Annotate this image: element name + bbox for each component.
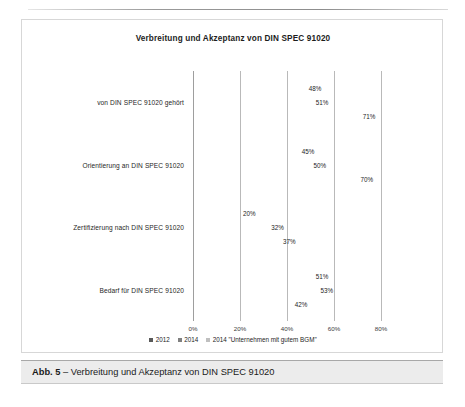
bar-row: 53%: [193, 283, 318, 297]
bar-group: Orientierung an DIN SPEC 9102045%50%70%: [193, 134, 381, 197]
bar-value-label: 70%: [361, 175, 374, 182]
bar-row: 51%: [193, 269, 313, 283]
bar-group: von DIN SPEC 91020 gehört48%51%71%: [193, 71, 381, 134]
legend-label: 2012: [156, 336, 170, 343]
legend-swatch-icon: [206, 338, 210, 342]
legend-label: 2014 "Unternehmen mit gutem BGM": [213, 336, 317, 343]
x-tick-label: 20%: [234, 325, 246, 332]
figure-caption-number: Abb. 5: [32, 367, 60, 377]
legend-item[interactable]: 2014: [178, 336, 199, 343]
bar-row: 48%: [193, 81, 306, 95]
x-tick-label: 40%: [281, 325, 293, 332]
bar-value-label: 37%: [283, 238, 296, 245]
bar-value-label: 51%: [316, 99, 329, 106]
bar-value-label: 48%: [309, 85, 322, 92]
x-tick-label: 80%: [375, 325, 387, 332]
figure-caption-title: Verbreitung und Akzeptanz von DIN SPEC 9…: [71, 367, 275, 377]
bar-row: 45%: [193, 144, 299, 158]
bar-group: Zertifizierung nach DIN SPEC 9102020%32%…: [193, 196, 381, 259]
bar-row: 37%: [193, 234, 280, 248]
bar-row: 70%: [193, 172, 358, 186]
bar-value-label: 45%: [302, 147, 315, 154]
category-label: Bedarf für DIN SPEC 91020: [99, 286, 184, 293]
page-top-rule: [28, 9, 448, 10]
x-tick-label: 0%: [189, 325, 198, 332]
figure-caption: Abb. 5 – Verbreitung und Akzeptanz von D…: [32, 367, 274, 377]
chart-title: Verbreitung und Akzeptanz von DIN SPEC 9…: [22, 34, 444, 43]
legend-swatch-icon: [178, 338, 182, 342]
legend-swatch-icon: [149, 338, 153, 342]
bar-value-label: 53%: [321, 286, 334, 293]
bar-value-label: 42%: [295, 300, 308, 307]
bar-row: 20%: [193, 206, 240, 220]
category-label: Zertifizierung nach DIN SPEC 91020: [73, 224, 184, 231]
bar-value-label: 20%: [243, 210, 256, 217]
bar-value-label: 71%: [363, 113, 376, 120]
legend-item[interactable]: 2014 "Unternehmen mit gutem BGM": [206, 336, 316, 343]
bar-group: Bedarf für DIN SPEC 9102051%53%42%: [193, 259, 381, 322]
x-tick-label: 60%: [328, 325, 340, 332]
bar-value-label: 51%: [316, 272, 329, 279]
bar-row: 32%: [193, 220, 268, 234]
bar-value-label: 50%: [314, 161, 327, 168]
chart-legend: 201220142014 "Unternehmen mit gutem BGM": [22, 336, 444, 343]
legend-item[interactable]: 2012: [149, 336, 170, 343]
bar-value-label: 32%: [271, 224, 284, 231]
plot-area: 0%20%40%60%80% von DIN SPEC 91020 gehört…: [193, 71, 381, 321]
bar-row: 42%: [193, 297, 292, 311]
category-label: von DIN SPEC 91020 gehört: [97, 99, 184, 106]
gridline-80: [381, 71, 382, 321]
bar-row: 71%: [193, 109, 360, 123]
bar-row: 51%: [193, 95, 313, 109]
figure-container: Verbreitung und Akzeptanz von DIN SPEC 9…: [21, 19, 443, 353]
bar-row: 50%: [193, 158, 311, 172]
category-label: Orientierung an DIN SPEC 91020: [82, 161, 184, 168]
figure-caption-band: Abb. 5 – Verbreitung und Akzeptanz von D…: [21, 360, 443, 384]
legend-label: 2014: [184, 336, 198, 343]
figure-caption-separator: –: [60, 367, 70, 377]
